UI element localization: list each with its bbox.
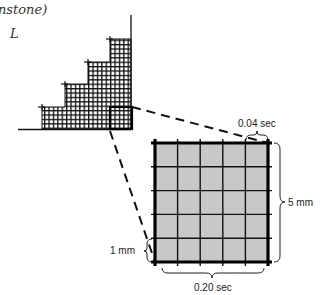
- brace-small-height: 1 mm: [110, 239, 152, 262]
- zoomed-large-square: [151, 139, 272, 266]
- brace-small-time: 0.04 sec: [238, 118, 276, 140]
- label-small-height: 1 mm: [110, 245, 135, 256]
- handwritten-text: nstone): [0, 2, 47, 17]
- handwritten-mark: L: [9, 26, 19, 41]
- label-large-height: 5 mm: [288, 197, 313, 208]
- staircase-grid: [18, 15, 132, 130]
- ecg-grid-diagram: nstone) L: [0, 0, 320, 295]
- label-large-time: 0.20 sec: [194, 282, 232, 293]
- brace-large-height: 5 mm: [274, 143, 313, 262]
- handwritten-note: nstone) L: [0, 2, 47, 41]
- brace-large-time: 0.20 sec: [162, 268, 264, 293]
- label-small-time: 0.04 sec: [238, 118, 276, 129]
- connector-line-bottom: [110, 131, 155, 262]
